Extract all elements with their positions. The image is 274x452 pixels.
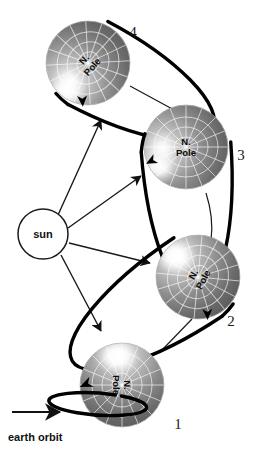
sun-rays-group xyxy=(58,120,150,331)
globe-1-pole-label-line2: Pole xyxy=(111,375,122,395)
globe-4-number-label: 4 xyxy=(129,24,137,40)
sun: sun xyxy=(18,209,68,259)
globe-3-number-label: 3 xyxy=(237,147,245,163)
earth-orbit-annotation: earth orbit xyxy=(8,412,63,443)
connector-3-to-2 xyxy=(206,193,212,240)
sun-ray-to-position-2 xyxy=(69,243,150,263)
sun-label: sun xyxy=(33,228,53,240)
sun-ray-to-position-1 xyxy=(61,255,101,331)
globe-2-number-label: 2 xyxy=(227,313,235,329)
globe-1-number-label: 1 xyxy=(174,416,182,432)
diagram-canvas: sun xyxy=(0,0,274,452)
globe-4-highlight xyxy=(44,73,88,111)
sun-ray-to-position-4 xyxy=(58,120,101,215)
globe-3-pole-label-line1: N. xyxy=(181,136,191,147)
globe-3-pole-label-line2: Pole xyxy=(176,147,196,158)
earth-orbit-label: earth orbit xyxy=(8,431,63,443)
connector-4-to-3 xyxy=(130,86,176,111)
globe-1-pole-label-line1: N. xyxy=(122,380,133,390)
sun-ray-to-position-3 xyxy=(68,176,141,228)
